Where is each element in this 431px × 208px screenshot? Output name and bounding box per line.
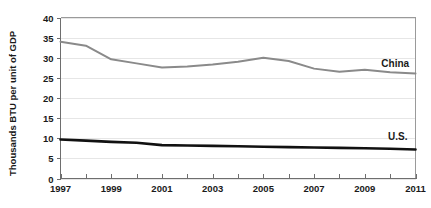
- x-tick-label-2011: 2011: [405, 183, 426, 194]
- y-tick-label-15: 15: [43, 113, 54, 124]
- x-tick-label-2005: 2005: [253, 183, 275, 194]
- x-axis-ticks: [62, 174, 417, 179]
- x-tick-label-1997: 1997: [50, 183, 71, 194]
- x-tick-label-2001: 2001: [151, 183, 173, 194]
- chart-container: 0510152025303540 19971999200120032005200…: [0, 0, 431, 208]
- x-tick-label-2009: 2009: [354, 183, 375, 194]
- y-tick-label-10: 10: [43, 133, 54, 144]
- y-axis-tick-labels: 0510152025303540: [43, 13, 54, 185]
- series-line-us: [61, 139, 416, 149]
- y-tick-label-5: 5: [48, 153, 54, 164]
- y-tick-label-25: 25: [43, 73, 54, 84]
- series-label-china: China: [381, 58, 409, 69]
- y-axis-title: Thousands BTU per unit of GDP: [7, 30, 18, 176]
- y-tick-label-20: 20: [43, 93, 54, 104]
- line-chart: 0510152025303540 19971999200120032005200…: [0, 0, 431, 208]
- series-label-us: U.S.: [388, 131, 408, 142]
- y-tick-label-30: 30: [43, 53, 54, 64]
- data-series-group: [61, 42, 416, 150]
- x-tick-label-1999: 1999: [101, 183, 122, 194]
- x-tick-label-2003: 2003: [202, 183, 223, 194]
- chart-gridlines: [61, 19, 416, 180]
- y-tick-label-35: 35: [43, 33, 54, 44]
- x-axis-tick-labels: 19971999200120032005200720092011: [50, 183, 427, 194]
- series-line-china: [61, 42, 416, 74]
- series-inline-labels: ChinaU.S.: [381, 58, 409, 142]
- x-tick-label-2007: 2007: [304, 183, 325, 194]
- y-tick-label-40: 40: [43, 13, 54, 24]
